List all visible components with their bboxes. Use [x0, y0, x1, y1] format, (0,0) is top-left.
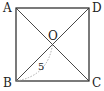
- square-diagram: A D B C O 5: [0, 0, 104, 91]
- vertex-label-c: C: [92, 76, 101, 90]
- length-label-5: 5: [38, 61, 44, 72]
- center-label-o: O: [48, 29, 58, 43]
- vertex-label-a: A: [2, 1, 12, 15]
- vertex-label-d: D: [92, 1, 102, 15]
- vertex-label-b: B: [3, 76, 12, 90]
